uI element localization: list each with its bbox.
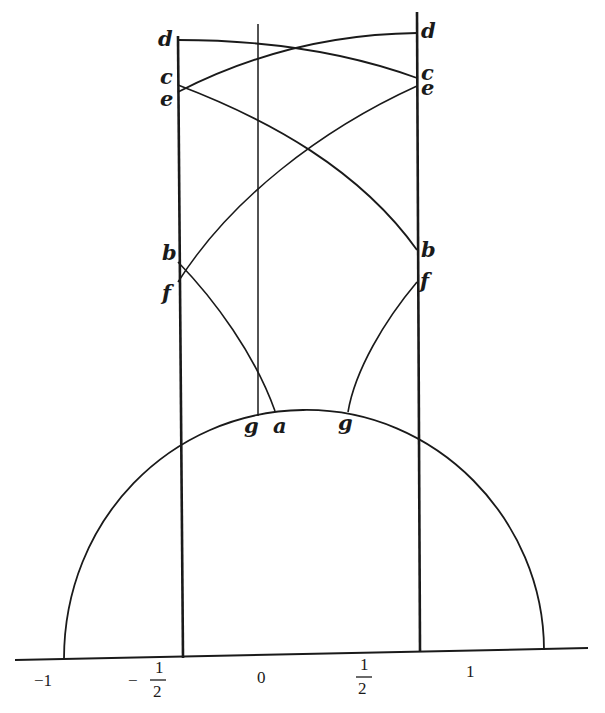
arc-d-right-to-e-left	[178, 33, 417, 92]
unit-semicircle	[64, 410, 544, 659]
label-b-left: b	[162, 240, 177, 265]
tick-minus-half-sign: −	[128, 671, 138, 690]
real-axis	[15, 648, 588, 660]
arc-b-left-to-a	[178, 262, 275, 411]
arc-c-left-to-b-right	[178, 85, 417, 250]
arc-f-right-to-g-right	[348, 282, 417, 412]
label-f-right: f	[418, 268, 433, 293]
label-d-left: d	[158, 26, 173, 51]
label-e-right: e	[421, 75, 434, 100]
fundamental-domain-diagram: d d c c e e b b f f g a g −1 − 1 2 0 1 2…	[0, 0, 605, 713]
label-a: a	[273, 413, 287, 438]
vertical-line-plus-half	[417, 12, 420, 651]
tick-minus-half-den: 2	[153, 682, 162, 701]
tick-half-num: 1	[360, 655, 369, 674]
tick-minus-half-num: 1	[155, 658, 164, 677]
vertical-line-minus-half	[178, 36, 183, 658]
label-d-right: d	[421, 18, 436, 43]
tick-half-den: 2	[358, 679, 367, 698]
label-e-left: e	[160, 86, 173, 111]
tick-minus-one: −1	[34, 671, 52, 690]
tick-one: 1	[466, 662, 475, 681]
label-f-left: f	[160, 280, 175, 305]
label-g-right: g	[338, 410, 353, 435]
label-g-left: g	[244, 413, 259, 438]
arc-e-right-to-f-left	[178, 86, 417, 282]
tick-zero: 0	[257, 668, 266, 687]
label-b-right: b	[421, 237, 436, 262]
arc-d-left-to-c-right	[178, 40, 417, 78]
